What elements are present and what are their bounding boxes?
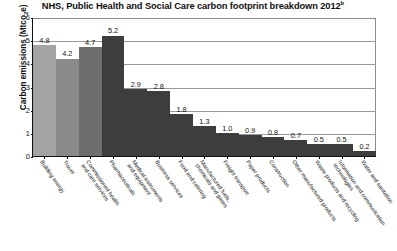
bar[interactable]: 1.8 xyxy=(170,114,193,156)
bar-value-label: 1.8 xyxy=(177,106,187,113)
bar[interactable]: 0.2 xyxy=(353,151,376,156)
bar[interactable]: 0.7 xyxy=(284,140,307,156)
y-axis-tick-label: 0 xyxy=(26,153,30,161)
bar-slot: 0.7 xyxy=(284,18,307,156)
bar-slot: 0.2 xyxy=(353,18,376,156)
y-axis-tick-label: 5 xyxy=(26,37,30,45)
bar[interactable]: 2.9 xyxy=(124,89,147,156)
bar-slot: 1.0 xyxy=(216,18,239,156)
y-axis-tick-label: 1 xyxy=(26,130,30,138)
bar[interactable]: 0.8 xyxy=(262,137,285,156)
y-axis-tick-label: 4 xyxy=(26,61,30,69)
bar-value-label: 0.7 xyxy=(291,132,301,139)
chart-title-footnote-marker: b xyxy=(341,0,345,6)
x-axis-labels: Building energyTravelCommissioned health… xyxy=(32,159,376,251)
y-axis-tick-label: 3 xyxy=(26,84,30,92)
bar-value-label: 0.9 xyxy=(245,127,255,134)
bar-slot: 2.8 xyxy=(147,18,170,156)
bar[interactable]: 0.5 xyxy=(307,144,330,156)
plot-area: 0123456 4.84.24.75.22.92.81.81.31.00.90.… xyxy=(32,18,376,157)
bar-slot: 0.5 xyxy=(307,18,330,156)
bar-value-label: 0.8 xyxy=(268,129,278,136)
bar-value-label: 0.2 xyxy=(359,143,369,150)
bar[interactable]: 5.2 xyxy=(102,36,125,156)
bar[interactable]: 1.0 xyxy=(216,133,239,156)
bar-value-label: 2.8 xyxy=(154,83,164,90)
bar-value-label: 4.8 xyxy=(39,37,49,44)
bar[interactable]: 4.2 xyxy=(56,59,79,156)
bar-slot: 4.8 xyxy=(33,18,56,156)
bar-slot: 4.7 xyxy=(79,18,102,156)
bar[interactable]: 0.5 xyxy=(330,144,353,156)
bar[interactable]: 4.7 xyxy=(79,47,102,156)
bar-slot: 0.9 xyxy=(239,18,262,156)
chart-title-text: NHS, Public Health and Social Care carbo… xyxy=(42,1,341,11)
bar-value-label: 5.2 xyxy=(108,27,118,34)
x-axis-label: Information and communication technologi… xyxy=(332,159,397,251)
bar-slot: 2.9 xyxy=(124,18,147,156)
bar-value-label: 2.9 xyxy=(131,81,141,88)
bar-slot: 1.3 xyxy=(193,18,216,156)
y-axis-tick-label: 2 xyxy=(26,107,30,115)
bar-value-label: 1.0 xyxy=(222,125,232,132)
bar-slot: 1.8 xyxy=(170,18,193,156)
bar-series: 4.84.24.75.22.92.81.81.31.00.90.80.70.50… xyxy=(33,18,376,156)
bar-slot: 0.8 xyxy=(262,18,285,156)
bar[interactable]: 2.8 xyxy=(147,91,170,156)
bar-slot: 5.2 xyxy=(102,18,125,156)
y-axis-title-suffix: e) xyxy=(19,4,28,11)
bar-value-label: 0.5 xyxy=(314,136,324,143)
bar[interactable]: 4.8 xyxy=(33,45,56,156)
bar[interactable]: 0.9 xyxy=(239,135,262,156)
bar-slot: 0.5 xyxy=(330,18,353,156)
bar[interactable]: 1.3 xyxy=(193,126,216,156)
bar-value-label: 4.2 xyxy=(62,50,72,57)
bar-slot: 4.2 xyxy=(56,18,79,156)
y-axis-tick-label: 6 xyxy=(26,14,30,22)
bar-value-label: 4.7 xyxy=(85,39,95,46)
chart-title: NHS, Public Health and Social Care carbo… xyxy=(0,0,386,11)
bar-value-label: 1.3 xyxy=(199,118,209,125)
bar-value-label: 0.5 xyxy=(337,136,347,143)
y-axis-tick-mark xyxy=(31,157,34,158)
